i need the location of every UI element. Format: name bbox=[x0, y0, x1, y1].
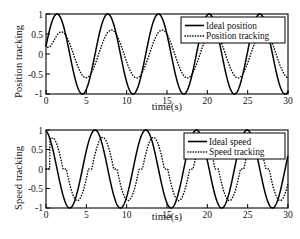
speed-ytick-1: 1 bbox=[38, 126, 43, 136]
position-xtick-5: 5 bbox=[84, 96, 89, 106]
position-xtick-10: 10 bbox=[122, 96, 132, 106]
speed-xtick-0: 0 bbox=[44, 210, 49, 220]
speed-ytick-0: 0 bbox=[38, 165, 43, 175]
position-xtick-15: 15 bbox=[162, 96, 172, 106]
speed-xtick-25: 25 bbox=[243, 210, 253, 220]
speed-legend: Ideal speed Speed tracking bbox=[184, 133, 285, 159]
position-legend: Ideal position Position tracking bbox=[181, 17, 285, 43]
position-legend-label-ideal: Ideal position bbox=[206, 21, 257, 31]
position-legend-label-tracking: Position tracking bbox=[206, 31, 270, 41]
position-xtick-25: 25 bbox=[243, 96, 253, 106]
position-ytick-neg1: -1 bbox=[35, 89, 43, 99]
speed-tracking-panel: Speed tracking time(s) 1 0.5 0 -0.5 -1 bbox=[0, 115, 300, 239]
speed-xtick-20: 20 bbox=[203, 210, 213, 220]
speed-legend-label-ideal: Ideal speed bbox=[209, 137, 251, 147]
position-ytick-0: 0 bbox=[38, 50, 43, 60]
position-ytick-0p5: 0.5 bbox=[31, 30, 43, 40]
position-y-ticks: 1 0.5 0 -0.5 -1 bbox=[28, 10, 50, 100]
speed-ytick-neg0p5: -0.5 bbox=[28, 184, 43, 194]
position-xtick-0: 0 bbox=[44, 96, 49, 106]
position-xtick-20: 20 bbox=[203, 96, 213, 106]
position-ytick-1: 1 bbox=[38, 10, 43, 20]
position-tracking-plot: 1 0.5 0 -0.5 -1 0 5 10 15 20 25 bbox=[0, 0, 300, 120]
speed-xtick-15: 15 bbox=[162, 210, 172, 220]
speed-ytick-0p5: 0.5 bbox=[31, 145, 43, 155]
figure-container: Position tracking time(s) 1 0.5 0 -0.5 -… bbox=[0, 0, 300, 239]
speed-xtick-5: 5 bbox=[84, 210, 89, 220]
position-ytick-neg0p5: -0.5 bbox=[28, 70, 43, 80]
speed-tracking-plot: 1 0.5 0 -0.5 -1 0 5 10 15 20 25 bbox=[0, 115, 300, 239]
speed-xtick-10: 10 bbox=[122, 210, 132, 220]
speed-ytick-neg1: -1 bbox=[35, 203, 43, 213]
speed-xtick-30: 30 bbox=[283, 210, 293, 220]
position-xtick-30: 30 bbox=[283, 96, 293, 106]
position-tracking-panel: Position tracking time(s) 1 0.5 0 -0.5 -… bbox=[0, 0, 300, 120]
speed-legend-label-tracking: Speed tracking bbox=[209, 147, 265, 157]
